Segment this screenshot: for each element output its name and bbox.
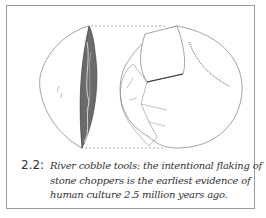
figure-frame: 2.2: River cobble tools: the intentional…	[6, 5, 255, 209]
caption-line: human culture 2.5 million years ago.	[50, 188, 260, 203]
caption-text: River cobble tools: the intentional flak…	[50, 159, 260, 203]
caption-line: stone choppers is the earliest evidence …	[50, 174, 260, 189]
flake-scar-large	[141, 26, 185, 82]
figure-number: 2.2:	[21, 158, 44, 172]
caption-line: River cobble tools: the intentional flak…	[50, 159, 260, 174]
stone-chopper-illustration	[37, 22, 245, 152]
